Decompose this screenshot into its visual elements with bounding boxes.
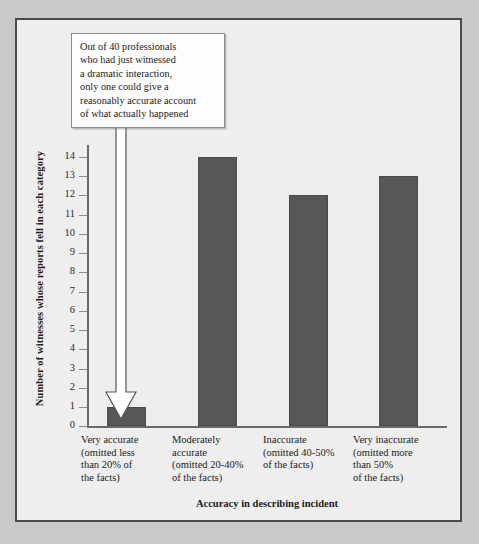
- y-tick-0: [79, 426, 87, 427]
- y-tick-label-9: 9: [51, 247, 75, 257]
- bar-very-inaccurate[interactable]: [379, 176, 418, 426]
- y-tick-4: [79, 349, 87, 350]
- y-tick-label-10: 10: [51, 228, 75, 238]
- y-tick-1: [79, 407, 87, 408]
- x-category-label-0: Very accurate (omitted less than 20% of …: [81, 434, 177, 484]
- annotation-callout: Out of 40 professionals who had just wit…: [71, 33, 225, 128]
- x-category-label-2: Inaccurate (omitted 40-50% of the facts): [263, 434, 359, 472]
- annotation-arrow-icon: [105, 116, 137, 426]
- x-category-line: accurate: [172, 447, 268, 460]
- y-tick-label-14: 14: [51, 151, 75, 161]
- y-tick-label-13: 13: [51, 170, 75, 180]
- x-category-line: Inaccurate: [263, 434, 359, 447]
- y-tick-8: [79, 272, 87, 273]
- x-category-line: (omitted more: [353, 447, 449, 460]
- x-category-line: Very accurate: [81, 434, 177, 447]
- y-tick-10: [79, 234, 87, 235]
- x-category-line: (omitted 40-50%: [263, 447, 359, 460]
- annotation-line: of what actually happened: [80, 107, 217, 120]
- y-axis-title: Number of witnesses whose reports fell i…: [34, 149, 45, 409]
- bar-inaccurate[interactable]: [289, 195, 328, 426]
- x-category-line: (omitted less: [81, 447, 177, 460]
- y-tick-14: [79, 157, 87, 158]
- annotation-line: reasonably accurate account: [80, 94, 217, 107]
- annotation-line: only one could give a: [80, 80, 217, 93]
- y-tick-13: [79, 176, 87, 177]
- x-category-label-1: Moderately accurate (omitted 20-40% of t…: [172, 434, 268, 484]
- y-tick-label-12: 12: [51, 189, 75, 199]
- y-tick-label-2: 2: [51, 382, 75, 392]
- x-category-line: than 20% of: [81, 459, 177, 472]
- y-tick-label-11: 11: [51, 209, 75, 219]
- y-axis-line: [87, 145, 89, 427]
- annotation-line: a dramatic interaction,: [80, 67, 217, 80]
- y-tick-label-7: 7: [51, 286, 75, 296]
- x-category-line: than 50%: [353, 459, 449, 472]
- chart-figure: Number of witnesses whose reports fell i…: [15, 18, 462, 522]
- annotation-line: who had just witnessed: [80, 53, 217, 66]
- x-category-line: (omitted 20-40%: [172, 459, 268, 472]
- y-tick-label-0: 0: [51, 420, 75, 430]
- x-category-label-3: Very inaccurate (omitted more than 50% o…: [353, 434, 449, 484]
- y-tick-6: [79, 311, 87, 312]
- x-category-line: the facts): [81, 472, 177, 485]
- y-tick-5: [79, 330, 87, 331]
- x-category-line: of the facts): [172, 472, 268, 485]
- y-tick-label-6: 6: [51, 305, 75, 315]
- y-tick-7: [79, 292, 87, 293]
- x-category-line: of the facts): [353, 472, 449, 485]
- y-tick-3: [79, 369, 87, 370]
- x-category-line: Moderately: [172, 434, 268, 447]
- y-tick-label-4: 4: [51, 343, 75, 353]
- y-tick-11: [79, 215, 87, 216]
- bar-moderately-accurate[interactable]: [198, 157, 237, 426]
- y-tick-label-3: 3: [51, 363, 75, 373]
- y-tick-9: [79, 253, 87, 254]
- x-category-line: Very inaccurate: [353, 434, 449, 447]
- y-tick-label-5: 5: [51, 324, 75, 334]
- x-axis-title: Accuracy in describing incident: [87, 498, 447, 509]
- x-axis-line: [87, 426, 447, 428]
- annotation-line: Out of 40 professionals: [80, 40, 217, 53]
- x-category-line: of the facts): [263, 459, 359, 472]
- y-tick-label-8: 8: [51, 266, 75, 276]
- y-tick-label-1: 1: [51, 401, 75, 411]
- y-tick-2: [79, 388, 87, 389]
- y-tick-12: [79, 195, 87, 196]
